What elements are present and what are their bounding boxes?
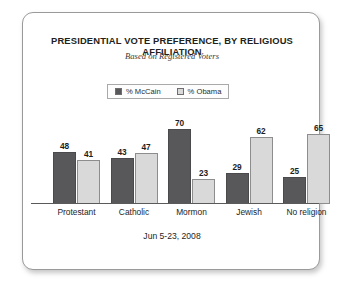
bar-group: 2962 bbox=[226, 137, 273, 204]
category-label-no-religion: No religion bbox=[275, 207, 338, 217]
chart-subtitle: Based on Registered Voters bbox=[23, 51, 321, 61]
bar-value-label: 29 bbox=[232, 162, 241, 172]
bar-obama: 47 bbox=[135, 153, 158, 204]
bar-value-label: 47 bbox=[141, 142, 150, 152]
bar-value-label: 43 bbox=[117, 147, 126, 157]
chart-legend: % McCain % Obama bbox=[107, 84, 229, 99]
bar-value-label: 70 bbox=[175, 118, 184, 128]
bar-mccain: 29 bbox=[226, 173, 249, 204]
chart-card: PRESIDENTIAL VOTE PREFERENCE, BY RELIGIO… bbox=[22, 12, 320, 270]
bar-value-label: 48 bbox=[60, 141, 69, 151]
legend-label-obama: % Obama bbox=[188, 87, 222, 96]
bar-group: 7023 bbox=[168, 129, 215, 204]
bar-mccain: 70 bbox=[168, 129, 191, 204]
category-label-catholic: Catholic bbox=[103, 207, 166, 217]
x-axis-line bbox=[31, 203, 319, 204]
category-label-mormon: Mormon bbox=[160, 207, 223, 217]
bar-obama: 65 bbox=[307, 134, 330, 204]
bar-value-label: 23 bbox=[199, 168, 208, 178]
legend-label-mccain: % McCain bbox=[126, 87, 161, 96]
bar-mccain: 25 bbox=[283, 177, 306, 204]
bar-group: 2565 bbox=[283, 134, 330, 204]
legend-item-obama: % Obama bbox=[177, 87, 222, 96]
category-label-protestant: Protestant bbox=[45, 207, 108, 217]
chart-footnote: Jun 5-23, 2008 bbox=[23, 231, 321, 241]
category-label-jewish: Jewish bbox=[218, 207, 281, 217]
bar-value-label: 62 bbox=[256, 126, 265, 136]
bar-mccain: 43 bbox=[111, 158, 134, 204]
bar-mccain: 48 bbox=[53, 152, 76, 204]
bar-value-label: 65 bbox=[314, 123, 323, 133]
bar-obama: 23 bbox=[192, 179, 215, 204]
plot-area: 48414347702329622565 bbox=[31, 118, 319, 204]
bar-group: 4841 bbox=[53, 152, 100, 204]
bar-obama: 62 bbox=[250, 137, 273, 204]
bar-value-label: 25 bbox=[290, 166, 299, 176]
legend-swatch-obama bbox=[177, 88, 184, 95]
legend-swatch-mccain bbox=[115, 88, 122, 95]
bar-group: 4347 bbox=[111, 153, 158, 204]
legend-item-mccain: % McCain bbox=[115, 87, 161, 96]
bar-value-label: 41 bbox=[84, 149, 93, 159]
bar-obama: 41 bbox=[77, 160, 100, 204]
